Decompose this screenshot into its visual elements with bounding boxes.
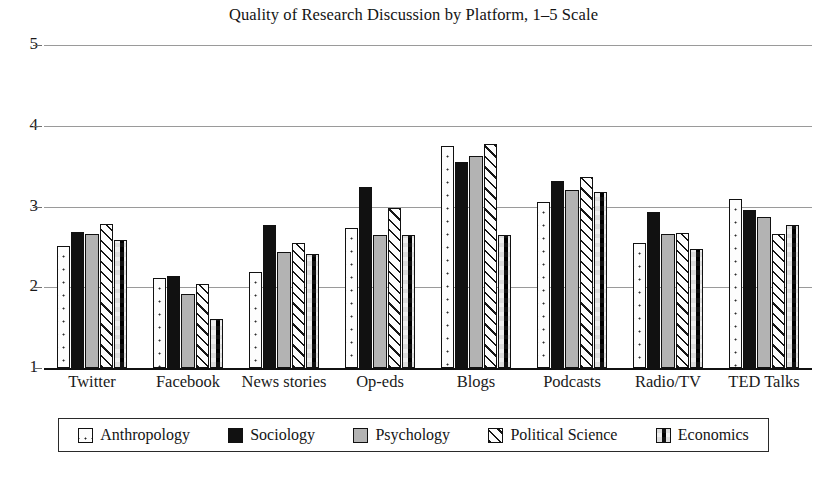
y-tick-label-5: 5 <box>8 35 38 52</box>
legend-label-politicalscience: Political Science <box>510 426 617 444</box>
y-tick-label-2: 2 <box>8 277 38 294</box>
bar-podcasts-anthropology <box>537 202 550 368</box>
bar-opeds-psychology <box>373 235 386 368</box>
plot-area <box>44 45 812 368</box>
bar-group-podcasts <box>524 45 620 368</box>
bar-blogs-politicalscience <box>484 144 497 368</box>
bar-group-opeds <box>332 45 428 368</box>
legend-item-politicalscience[interactable]: Political Science <box>488 426 617 444</box>
bar-blogs-psychology <box>469 156 482 368</box>
legend-swatch-politicalscience <box>488 428 503 443</box>
bar-group-tedtalks <box>716 45 812 368</box>
bar-radiotv-politicalscience <box>676 233 689 368</box>
bar-blogs-sociology <box>455 162 468 368</box>
bar-facebook-sociology <box>167 276 180 368</box>
legend-label-economics: Economics <box>678 426 749 444</box>
bar-opeds-politicalscience <box>388 208 401 368</box>
bar-radiotv-anthropology <box>633 243 646 368</box>
bar-tedtalks-anthropology <box>729 199 742 368</box>
y-tick-label-4: 4 <box>8 116 38 133</box>
bar-newsstories-sociology <box>263 225 276 368</box>
y-tick-mark-1 <box>33 368 42 369</box>
bar-opeds-anthropology <box>345 228 358 368</box>
axis-baseline <box>44 368 812 370</box>
x-tick-label-tedtalks: TED Talks <box>698 372 827 392</box>
y-tick-mark-2 <box>33 287 42 288</box>
bar-group-facebook <box>140 45 236 368</box>
bar-radiotv-psychology <box>661 234 674 368</box>
legend-item-economics[interactable]: Economics <box>656 426 749 444</box>
bar-radiotv-economics <box>690 249 703 368</box>
bar-blogs-anthropology <box>441 146 454 368</box>
legend-label-psychology: Psychology <box>375 426 450 444</box>
bar-newsstories-economics <box>306 254 319 368</box>
bar-tedtalks-sociology <box>743 210 756 368</box>
bar-facebook-economics <box>210 319 223 368</box>
bar-blogs-economics <box>498 235 511 368</box>
legend-swatch-psychology <box>353 428 368 443</box>
legend-label-anthropology: Anthropology <box>100 426 190 444</box>
bar-group-twitter <box>44 45 140 368</box>
bar-newsstories-psychology <box>277 252 290 368</box>
bar-facebook-anthropology <box>153 278 166 368</box>
bar-twitter-sociology <box>71 232 84 368</box>
legend-item-sociology[interactable]: Sociology <box>228 426 315 444</box>
legend-item-psychology[interactable]: Psychology <box>353 426 450 444</box>
bar-tedtalks-economics <box>786 225 799 368</box>
bar-group-blogs <box>428 45 524 368</box>
legend-swatch-economics <box>656 428 671 443</box>
bar-group-radiotv <box>620 45 716 368</box>
chart-legend: AnthropologySociologyPsychologyPolitical… <box>58 418 769 452</box>
bar-opeds-economics <box>402 235 415 368</box>
bar-twitter-anthropology <box>57 246 70 368</box>
bar-facebook-politicalscience <box>196 284 209 368</box>
y-tick-mark-5 <box>33 45 42 46</box>
bar-group-newsstories <box>236 45 332 368</box>
bar-radiotv-sociology <box>647 212 660 368</box>
bar-tedtalks-politicalscience <box>772 234 785 368</box>
y-tick-mark-4 <box>33 126 42 127</box>
bar-facebook-psychology <box>181 294 194 368</box>
bar-podcasts-economics <box>594 192 607 368</box>
bar-opeds-sociology <box>359 187 372 368</box>
chart-figure: Quality of Research Discussion by Platfo… <box>0 0 827 482</box>
legend-swatch-sociology <box>228 428 243 443</box>
bar-podcasts-sociology <box>551 181 564 368</box>
bar-twitter-psychology <box>85 234 98 368</box>
bar-newsstories-anthropology <box>249 272 262 368</box>
bar-newsstories-politicalscience <box>292 243 305 368</box>
y-tick-label-3: 3 <box>8 197 38 214</box>
bar-podcasts-psychology <box>565 190 578 368</box>
chart-title: Quality of Research Discussion by Platfo… <box>0 5 827 25</box>
bar-twitter-politicalscience <box>100 224 113 368</box>
legend-label-sociology: Sociology <box>250 426 315 444</box>
bar-tedtalks-psychology <box>757 217 770 368</box>
legend-item-anthropology[interactable]: Anthropology <box>78 426 190 444</box>
bar-podcasts-politicalscience <box>580 177 593 368</box>
y-tick-mark-3 <box>33 207 42 208</box>
legend-swatch-anthropology <box>78 428 93 443</box>
bar-twitter-economics <box>114 240 127 368</box>
